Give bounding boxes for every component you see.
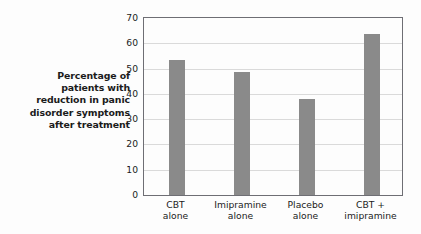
x-tick-label-imipramine-alone: Imipramine alone (204, 199, 278, 222)
x-tick-label-line-1: Imipramine (204, 199, 278, 210)
y-tick-label: 20 (103, 139, 138, 149)
bar-chart-figure: Percentage of patients with reduction in… (0, 0, 421, 234)
y-tick-label: 60 (103, 38, 138, 48)
bar-cbt-alone[interactable] (169, 60, 185, 195)
y-tick-label: 40 (103, 89, 138, 99)
x-tick-label-cbt-alone: CBT alone (139, 199, 213, 222)
plot-area (143, 17, 403, 196)
bars-layer (144, 18, 402, 195)
y-tick-label: 30 (103, 114, 138, 124)
y-axis-tick-labels: 70 60 50 40 30 20 10 0 (103, 0, 138, 234)
x-tick-label-line-2: alone (139, 210, 213, 221)
x-tick-label-line-1: CBT (139, 199, 213, 210)
y-tick-label: 0 (103, 190, 138, 200)
x-tick-label-cbt-plus-imipramine: CBT + imipramine (334, 199, 408, 222)
x-axis-tick-labels: CBT alone Imipramine alone Placebo alone… (143, 199, 403, 231)
bar-imipramine-alone[interactable] (234, 72, 250, 195)
x-tick-label-line-1: CBT + (334, 199, 408, 210)
x-tick-label-placebo-alone: Placebo alone (269, 199, 343, 222)
y-tick-label: 50 (103, 64, 138, 74)
bar-cbt-plus-imipramine[interactable] (364, 34, 380, 195)
y-tick-label: 70 (103, 13, 138, 23)
y-tick-label: 10 (103, 165, 138, 175)
x-tick-label-line-2: alone (269, 210, 343, 221)
x-tick-label-line-1: Placebo (269, 199, 343, 210)
x-tick-label-line-2: alone (204, 210, 278, 221)
x-tick-label-line-2: imipramine (334, 210, 408, 221)
bar-placebo-alone[interactable] (299, 99, 315, 195)
